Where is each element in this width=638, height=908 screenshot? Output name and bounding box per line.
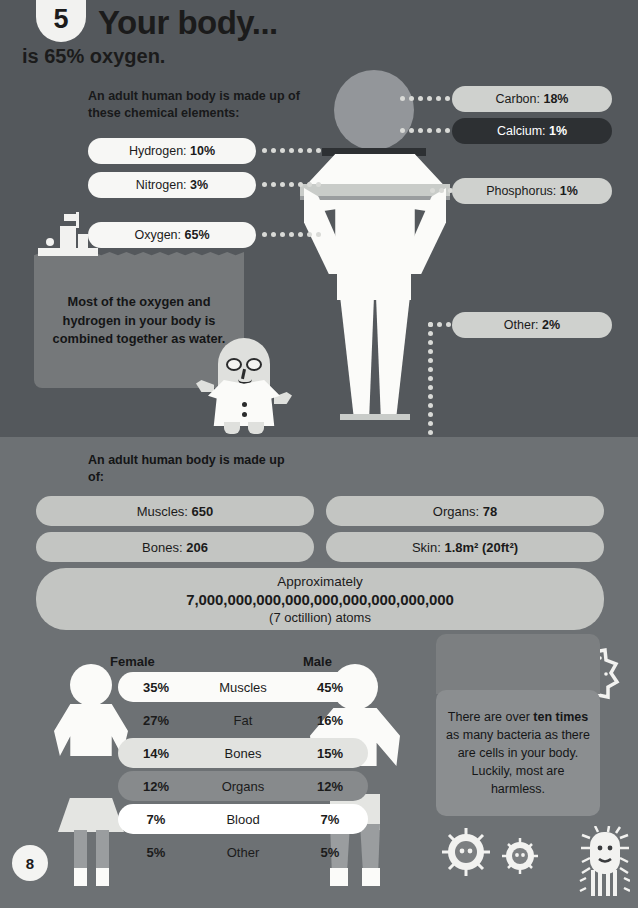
comparison-header-female: Female [110,654,155,669]
comparison-row-fat: 27% Fat 16% [118,705,368,735]
male-value-muscles: 45% [292,680,368,695]
figure-head [334,70,414,150]
stat-value-skin: 1.8m² (20ft²) [444,540,518,555]
page-subtitle: is 65% oxygen. [22,45,165,68]
connector-dots-other-horizontal [428,322,451,327]
connector-dots-nitrogen [262,182,321,187]
figure-nitrogen-band [300,184,450,196]
element-label-phosphorus: Phosphorus: [486,184,556,198]
comparison-row-bones: 14% Bones 15% [118,738,368,768]
connector-dots-hydrogen [262,148,321,153]
stat-pill-organs: Organs: 78 [326,496,604,526]
microbe-icons-bottom [440,826,630,906]
stat-value-muscles: 650 [192,504,214,519]
bacteria-note-pre: There are over [448,710,533,724]
comparison-label-bones: Bones [194,746,292,761]
stat-value-organs: 78 [483,504,497,519]
female-value-blood: 7% [118,812,194,827]
female-value-bones: 14% [118,746,194,761]
page-number: 8 [12,845,48,881]
comparison-label-blood: Blood [194,812,292,827]
male-value-blood: 7% [292,812,368,827]
stat-label-organs: Organs: [433,504,479,519]
male-value-fat: 16% [292,713,368,728]
female-value-fat: 27% [118,713,194,728]
element-pill-calcium: Calcium: 1% [452,118,612,144]
chemical-elements-section: 5 Your body... is 65% oxygen. An adult h… [0,0,638,437]
bacteria-note-emphasis: ten times [533,710,588,724]
element-pill-other: Other: 2% [452,312,612,338]
element-pill-carbon: Carbon: 18% [452,86,612,112]
body-stats-intro: An adult human body is made up of: [88,452,288,486]
stat-pill-muscles: Muscles: 650 [36,496,314,526]
element-pill-nitrogen: Nitrogen: 3% [88,172,256,198]
atom-line-approximately: Approximately [277,574,363,589]
comparison-row-muscles: 35% Muscles 45% [118,672,368,702]
figure-right-leg [376,296,410,416]
comparison-row-other: 5% Other 5% [118,837,368,867]
comparison-label-fat: Fat [194,713,292,728]
comparison-label-organs: Organs [194,779,292,794]
element-value-carbon: 18% [543,92,568,106]
infographic-page: 5 Your body... is 65% oxygen. An adult h… [0,0,638,908]
stat-pill-skin: Skin: 1.8m² (20ft²) [326,532,604,562]
element-value-phosphorus: 1% [560,184,578,198]
male-value-organs: 12% [292,779,368,794]
stat-value-bones: 206 [186,540,208,555]
bacteria-panel-top [436,634,600,694]
blob-right-eye [246,358,262,371]
comparison-header-male: Male [303,654,332,669]
section-number: 5 [53,4,68,35]
atom-count-number: 7,000,000,000,000,000,000,000,000,000 [186,591,453,608]
figure-torso [337,200,411,300]
element-label-calcium: Calcium: [497,124,546,138]
element-label-other: Other: [504,318,539,332]
boat-icon [38,212,98,258]
figure-left-leg [340,296,374,416]
female-value-other: 5% [118,845,194,860]
element-value-oxygen: 65% [185,228,210,242]
stat-label-bones: Bones: [142,540,182,555]
atom-count-words: (7 octillion) atoms [269,610,371,625]
element-value-other: 2% [542,318,560,332]
comparison-label-other: Other [194,845,292,860]
connector-dots-phosphorus [430,188,453,193]
element-pill-oxygen: Oxygen: 65% [88,222,256,248]
element-label-hydrogen: Hydrogen: [129,144,187,158]
element-label-oxygen: Oxygen: [134,228,181,242]
figure-feet [340,414,410,420]
stat-pill-bones: Bones: 206 [36,532,314,562]
comparison-row-blood: 7% Blood 7% [118,804,368,834]
page-title: Your body... [98,4,278,42]
connector-dots-oxygen [262,232,321,237]
stat-label-muscles: Muscles: [137,504,188,519]
element-value-calcium: 1% [549,124,567,138]
bacteria-callout-box: There are over ten times as many bacteri… [436,690,600,816]
element-pill-hydrogen: Hydrogen: 10% [88,138,256,164]
female-value-muscles: 35% [118,680,194,695]
male-value-other: 5% [292,845,368,860]
element-label-carbon: Carbon: [496,92,540,106]
comparison-label-muscles: Muscles [194,680,292,695]
element-value-nitrogen: 3% [190,178,208,192]
bacteria-note-post: as many bacteria as there are cells in y… [446,728,590,796]
male-value-bones: 15% [292,746,368,761]
blob-left-eye [226,358,242,371]
stat-label-skin: Skin: [412,540,441,555]
comparison-row-organs: 12% Organs 12% [118,771,368,801]
female-value-organs: 12% [118,779,194,794]
atom-count-panel: Approximately 7,000,000,000,000,000,000,… [36,568,604,630]
element-pill-phosphorus: Phosphorus: 1% [452,178,612,204]
element-label-nitrogen: Nitrogen: [136,178,187,192]
bacteria-note-text: There are over ten times as many bacteri… [443,708,593,799]
element-value-hydrogen: 10% [190,144,215,158]
section-number-badge: 5 [36,0,86,42]
elements-intro-text: An adult human body is made up of these … [88,88,318,122]
scientist-blob-character [196,336,292,436]
